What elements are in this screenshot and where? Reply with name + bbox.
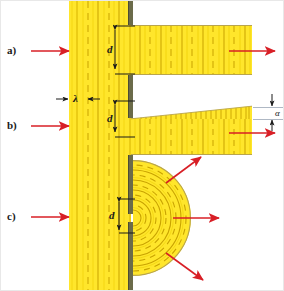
diffraction-figure: a) b) c) d d d λ α [0,0,284,291]
panel-label-c: c) [7,211,16,222]
panel-b-transmitted-beam [131,106,252,155]
slit-width-label-b: d [107,113,113,124]
slit-width-label-a: d [107,44,113,55]
slit-width-label-c: d [109,210,115,221]
panel-label-b: b) [7,120,17,131]
panel-b-diffraction-fringe [131,106,252,119]
radial-wave-arrow-down [166,253,203,280]
wavelength-label: λ [73,93,78,104]
radial-wave-arrow-up [166,157,201,183]
diffraction-angle-label: α [275,109,280,118]
panel-a-transmitted-beam [131,25,252,75]
incoming-plane-wave [69,1,131,291]
panel-label-a: a) [7,45,16,56]
wave-diagram-canvas [1,1,284,291]
